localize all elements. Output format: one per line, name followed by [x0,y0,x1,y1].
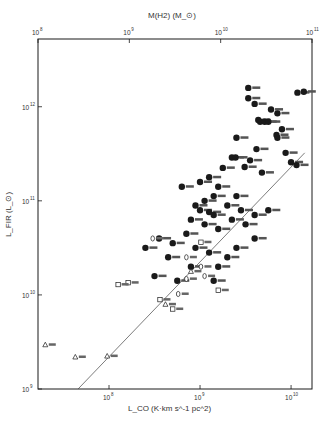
data-point-open-circle [151,236,155,241]
point-label [195,218,203,221]
point-label [240,246,248,249]
x-tick-label: 10 [194,394,202,401]
point-label [190,277,197,280]
point-label [308,90,316,93]
point-label [260,148,268,151]
data-point-filled-circle [174,278,180,284]
data-point-open-square [199,240,203,244]
point-label [122,283,129,286]
data-point-filled-circle [279,126,285,132]
data-point-filled-circle [210,212,216,218]
data-point-open-triangle [73,354,78,359]
x-axis-label: L_CO (K·km s^-1 pc^2) [128,404,211,413]
data-point-filled-circle [288,159,294,165]
data-point-filled-circle [265,119,271,125]
data-point-open-triangle [43,342,48,347]
point-label [249,165,257,168]
data-point-filled-circle [215,184,221,190]
point-label [227,166,235,169]
point-label [280,133,288,136]
point-label [49,343,56,346]
top-tick-label: 10 [306,29,314,36]
data-point-filled-circle [233,193,239,199]
data-point-filled-circle [183,231,189,237]
data-point-open-square [171,307,175,311]
point-label [231,204,239,207]
point-label [236,218,244,221]
top-tick-exponent: 9 [131,27,134,32]
data-point-filled-circle [268,106,274,112]
data-point-filled-circle [197,207,203,213]
data-point-filled-circle [274,110,280,116]
point-label [149,246,157,249]
point-label [209,199,217,202]
data-point-open-triangle [105,353,110,358]
y-tick-exponent: 12 [30,102,36,107]
point-label [132,281,139,284]
data-point-filled-circle [220,165,226,171]
point-label [111,355,118,358]
data-point-filled-circle [273,132,279,138]
data-point-filled-circle [210,193,216,199]
data-point-filled-circle [197,179,203,185]
y-tick-label: 10 [22,292,30,299]
point-label [190,232,198,235]
data-point-filled-circle [201,221,207,227]
data-point-filled-circle [245,85,251,91]
y-tick-label: 10 [22,104,30,111]
data-point-filled-circle [142,245,148,251]
x-tick-label: 10 [103,394,111,401]
data-point-open-triangle [163,302,168,307]
data-point-filled-circle [210,278,216,284]
data-point-filled-circle [251,101,257,107]
data-point-filled-circle [238,207,244,213]
point-label [176,308,183,311]
point-label [204,241,211,244]
data-point-filled-circle [192,202,198,208]
data-point-filled-circle [233,245,239,251]
y-tick-exponent: 9 [30,384,33,389]
data-point-filled-circle [201,198,207,204]
point-label [172,256,180,259]
top-tick-exponent: 10 [223,27,229,32]
point-label [177,242,185,245]
y-axis-label: L_FIR (L_⊙) [4,192,13,237]
data-point-filled-circle [242,221,248,227]
point-label [245,209,253,212]
point-label [209,223,217,226]
top-tick-label: 10 [215,29,223,36]
data-point-filled-circle [294,89,300,95]
y-tick-label: 10 [22,198,30,205]
point-label [240,156,248,159]
scatter-plot: 108109101010810910101011109101010111012 [0,0,326,427]
data-point-filled-circle [206,174,212,180]
point-label [204,181,212,184]
point-label [222,185,230,188]
point-label [218,279,226,282]
point-label [222,289,229,292]
point-label [159,275,167,278]
point-label [290,151,298,154]
data-point-filled-circle [245,95,251,101]
top-tick-exponent: 8 [40,27,43,32]
point-label [156,237,163,240]
data-point-filled-circle [259,169,265,175]
y-tick-label: 10 [22,386,30,393]
point-label [213,176,221,179]
data-point-filled-circle [224,202,230,208]
data-point-filled-circle [188,216,194,222]
point-label [266,171,274,174]
data-point-filled-circle [232,154,238,160]
point-label [275,108,283,111]
data-point-filled-circle [229,216,235,222]
data-point-filled-circle [241,164,247,170]
data-point-filled-circle [206,249,212,255]
data-point-filled-circle [151,273,157,279]
point-label [281,112,289,115]
data-point-filled-circle [301,88,307,94]
data-point-open-square [216,288,220,292]
plot-frame [38,39,312,389]
top-tick-label: 10 [123,29,131,36]
data-point-filled-circle [215,226,221,232]
point-label [301,164,309,167]
